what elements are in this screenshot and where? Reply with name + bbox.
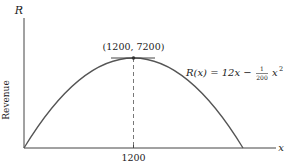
function-label: R(x) = 12x − 1 200 x 2 <box>185 65 283 81</box>
chart: R x Revenue 1200 (1200, 7200) R(x) = 12x… <box>0 0 286 166</box>
function-label-denominator: 200 <box>256 74 268 81</box>
max-point <box>132 56 136 60</box>
function-label-variable: x <box>272 67 278 78</box>
function-label-exponent: 2 <box>279 65 283 73</box>
y-axis-title: Revenue <box>1 80 11 119</box>
x-axis-label: x <box>278 142 284 153</box>
function-label-lhs: R(x) = 12x − <box>185 67 252 78</box>
x-tick-label: 1200 <box>121 152 145 163</box>
function-label-numerator: 1 <box>260 65 264 72</box>
max-point-label: (1200, 7200) <box>103 41 165 52</box>
y-axis-label: R <box>14 4 23 17</box>
